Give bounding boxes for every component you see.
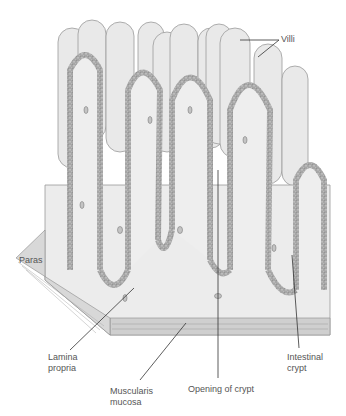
label-opening-of-crypt: Opening of crypt	[188, 384, 254, 395]
label-villi: Villi	[281, 34, 295, 45]
label-lamina-propria: Lamina propria	[48, 352, 78, 374]
label-paras: Paras	[19, 255, 43, 266]
label-intestinal-crypt: Intestinal crypt	[287, 352, 323, 374]
label-muscularis-mucosa: Muscularis mucosa	[110, 386, 153, 408]
